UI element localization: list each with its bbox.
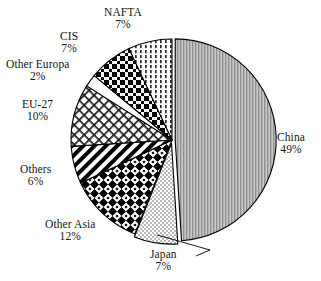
slice-label-value-other-asia: 12% bbox=[45, 230, 96, 242]
slice-label-value-eu-27: 10% bbox=[22, 110, 53, 122]
slice-label-name-other-asia: Other Asia bbox=[45, 218, 96, 230]
slice-label-china: China49% bbox=[277, 131, 305, 156]
slice-label-nafta: NAFTA7% bbox=[104, 6, 142, 31]
slice-label-name-japan: Japan bbox=[150, 248, 177, 260]
slice-label-other-europa: Other Europa2% bbox=[6, 58, 69, 83]
slice-label-name-cis: CIS bbox=[60, 30, 78, 42]
slice-label-value-others: 6% bbox=[20, 175, 51, 187]
slice-label-name-others: Others bbox=[20, 163, 51, 175]
pie-slices bbox=[71, 39, 276, 244]
pie-chart: China49%Japan7%Other Asia12%Others6%EU-2… bbox=[0, 0, 321, 281]
slice-label-value-cis: 7% bbox=[60, 42, 78, 54]
pie-slice-china[interactable] bbox=[175, 39, 276, 241]
slice-label-eu-27: EU-2710% bbox=[22, 98, 53, 123]
slice-label-others: Others6% bbox=[20, 163, 51, 188]
slice-label-name-eu-27: EU-27 bbox=[22, 98, 53, 110]
slice-label-value-china: 49% bbox=[277, 143, 305, 155]
slice-label-value-other-europa: 2% bbox=[6, 70, 69, 82]
slice-label-value-nafta: 7% bbox=[104, 18, 142, 30]
slice-label-value-japan: 7% bbox=[150, 260, 177, 272]
slice-label-name-china: China bbox=[277, 131, 305, 143]
slice-label-name-other-europa: Other Europa bbox=[6, 58, 69, 70]
slice-label-japan: Japan7% bbox=[150, 248, 177, 273]
slice-label-other-asia: Other Asia12% bbox=[45, 218, 96, 243]
slice-label-name-nafta: NAFTA bbox=[104, 6, 142, 18]
slice-label-cis: CIS7% bbox=[60, 30, 78, 55]
